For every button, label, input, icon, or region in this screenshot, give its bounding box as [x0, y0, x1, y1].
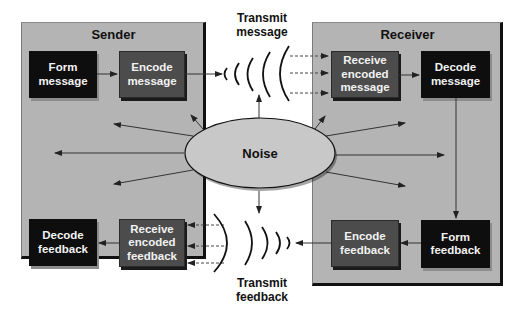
noise-label: Noise — [242, 146, 277, 161]
noise-node: Noise — [185, 118, 335, 188]
message-waves — [225, 46, 290, 101]
feedback-waves — [214, 214, 290, 272]
incoming-message-dashes — [290, 56, 328, 93]
incoming-feedback-dashes — [188, 225, 224, 263]
